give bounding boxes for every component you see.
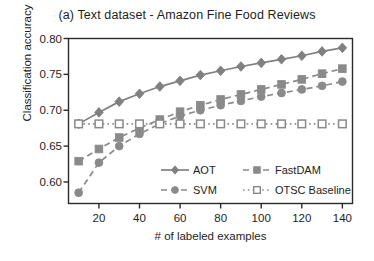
legend-label-fastdam: FastDAM	[272, 164, 321, 176]
legend-label-svm: SVM	[190, 184, 217, 196]
legend-swatch-fastdam	[242, 163, 272, 177]
chart-legend: AOT FastDAM SVM OTSC Baseline	[160, 160, 348, 200]
legend-row: SVM OTSC Baseline	[160, 180, 348, 200]
legend-swatch-otsc-baseline	[242, 183, 272, 197]
x-axis-label: # of labeled examples	[68, 230, 353, 242]
legend-row: AOT FastDAM	[160, 160, 348, 180]
legend-entry-fastdam: FastDAM	[242, 160, 321, 180]
legend-label-otsc-baseline: OTSC Baseline	[272, 184, 351, 196]
legend-swatch-aot	[160, 163, 190, 177]
legend-entry-aot: AOT	[160, 160, 242, 180]
legend-label-aot: AOT	[190, 164, 216, 176]
plot-area	[0, 0, 374, 261]
legend-entry-svm: SVM	[160, 180, 242, 200]
legend-entry-otsc-baseline: OTSC Baseline	[242, 180, 351, 200]
legend-swatch-svm	[160, 183, 190, 197]
chart-figure: (a) Text dataset - Amazon Fine Food Revi…	[0, 0, 374, 261]
